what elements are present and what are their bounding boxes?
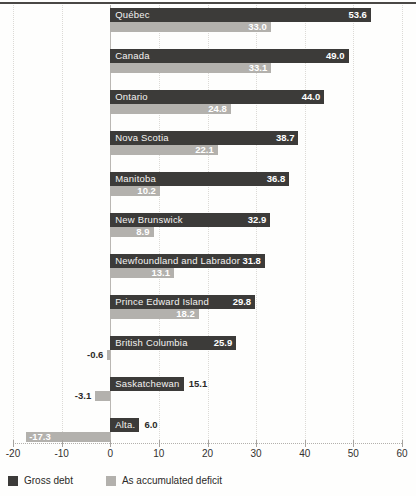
- axis-tick-label: 50: [348, 448, 359, 459]
- gross-debt-value: 31.8: [242, 254, 261, 268]
- gross-debt-value: 6.0: [144, 418, 157, 432]
- axis-tick-label: -10: [54, 448, 68, 459]
- axis-tick: [110, 440, 111, 447]
- province-label: Ontario: [115, 90, 148, 104]
- gross-debt-value: 44.0: [302, 90, 321, 104]
- province-label: Newfoundland and Labrador: [115, 254, 240, 268]
- accumulated-deficit-value: 33.1: [249, 63, 268, 73]
- gridline: [402, 5, 403, 444]
- legend: Gross debt As accumulated deficit: [8, 475, 222, 486]
- gross-debt-bar: Manitoba36.8: [110, 172, 289, 186]
- gross-debt-bar: Canada49.0: [110, 49, 348, 63]
- accumulated-deficit-value: 24.8: [208, 104, 227, 114]
- accumulated-deficit-value: 22.1: [195, 145, 214, 155]
- gross-debt-value: 15.1: [189, 377, 208, 391]
- x-axis: -20-100102030405060: [13, 438, 402, 462]
- axis-tick: [305, 440, 306, 447]
- gross-debt-bar: Prince Edward Island29.8: [110, 295, 255, 309]
- axis-tick-label: 40: [299, 448, 310, 459]
- accumulated-deficit-bar: 33.0: [110, 22, 270, 32]
- gross-debt-value: 32.9: [248, 213, 267, 227]
- province-label: Canada: [115, 49, 149, 63]
- accumulated-deficit-value: 18.2: [176, 309, 195, 319]
- gross-debt-bar: Saskatchewan: [110, 377, 183, 391]
- province-label: Québec: [115, 8, 149, 22]
- gross-debt-bar: British Columbia25.9: [110, 336, 236, 350]
- gross-debt-value: 53.6: [348, 8, 367, 22]
- province-label: New Brunswick: [115, 213, 183, 227]
- accumulated-deficit-legend-label: As accumulated deficit: [122, 475, 222, 486]
- accumulated-deficit-bar: 22.1: [110, 145, 217, 155]
- accumulated-deficit-swatch: [106, 476, 116, 486]
- province-label: Manitoba: [115, 172, 156, 186]
- axis-tick-label: 20: [202, 448, 213, 459]
- accumulated-deficit-value: 10.2: [137, 186, 156, 196]
- axis-tick: [13, 440, 14, 447]
- gross-debt-bar: Nova Scotia38.7: [110, 131, 298, 145]
- gridline: [353, 5, 354, 444]
- province-label: Saskatchewan: [115, 377, 179, 391]
- gross-debt-bar: Québec53.6: [110, 8, 371, 22]
- axis-tick-label: 30: [251, 448, 262, 459]
- gridline: [305, 5, 306, 444]
- gridline: [13, 5, 14, 444]
- gross-debt-bar: Ontario44.0: [110, 90, 324, 104]
- gross-debt-bar: Alta.: [110, 418, 139, 432]
- gross-debt-value: 25.9: [214, 336, 233, 350]
- gross-debt-swatch: [8, 476, 18, 486]
- province-label: Nova Scotia: [115, 131, 168, 145]
- accumulated-deficit-bar: 8.9: [110, 227, 153, 237]
- axis-tick-label: 60: [396, 448, 407, 459]
- accumulated-deficit-bar: 24.8: [110, 104, 231, 114]
- accumulated-deficit-bar: 10.2: [110, 186, 160, 196]
- gross-debt-value: 49.0: [326, 49, 345, 63]
- accumulated-deficit-bar: [107, 350, 110, 360]
- accumulated-deficit-value: 8.9: [136, 227, 149, 237]
- province-label: British Columbia: [115, 336, 187, 350]
- gross-debt-value: 29.8: [233, 295, 252, 309]
- accumulated-deficit-value: -0.6: [87, 350, 103, 360]
- accumulated-deficit-bar: 33.1: [110, 63, 271, 73]
- gross-debt-value: 36.8: [267, 172, 286, 186]
- gross-debt-bar: New Brunswick32.9: [110, 213, 270, 227]
- gross-debt-value: 38.7: [276, 131, 295, 145]
- accumulated-deficit-bar: 13.1: [110, 268, 174, 278]
- axis-tick: [256, 440, 257, 447]
- gross-debt-bar: Newfoundland and Labrador31.8: [110, 254, 265, 268]
- accumulated-deficit-value: -3.1: [75, 391, 91, 401]
- accumulated-deficit-bar: 18.2: [110, 309, 198, 319]
- plot-area: Québec53.633.0Canada49.033.1Ontario44.02…: [13, 3, 402, 444]
- gridline: [62, 5, 63, 444]
- province-label: Alta.: [115, 418, 135, 432]
- axis-tick: [353, 440, 354, 447]
- accumulated-deficit-value: 33.0: [248, 22, 267, 32]
- axis-tick: [208, 440, 209, 447]
- axis-tick-label: 10: [153, 448, 164, 459]
- axis-tick-label: 0: [107, 448, 113, 459]
- axis-tick: [62, 440, 63, 447]
- axis-tick: [159, 440, 160, 447]
- accumulated-deficit-bar: [95, 391, 110, 401]
- accumulated-deficit-value: 13.1: [151, 268, 170, 278]
- axis-tick-label: -20: [6, 448, 20, 459]
- chart-figure: Québec53.633.0Canada49.033.1Ontario44.02…: [0, 0, 416, 496]
- province-label: Prince Edward Island: [115, 295, 209, 309]
- axis-tick: [402, 440, 403, 447]
- gross-debt-legend-label: Gross debt: [24, 475, 73, 486]
